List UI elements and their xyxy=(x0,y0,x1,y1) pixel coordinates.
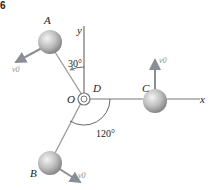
rotating-assembly-diagram: 6 A y 30° D O C x 120° B v0 v0 v0 xyxy=(0,0,217,190)
label-angle-120: 120° xyxy=(96,128,115,139)
label-d: D xyxy=(92,82,101,94)
rod-ob xyxy=(55,103,81,153)
label-angle-30: 30° xyxy=(68,58,82,69)
label-x: x xyxy=(199,93,205,105)
label-v0-a: v0 xyxy=(12,65,20,74)
label-c: C xyxy=(142,82,150,94)
label-v0-b: v0 xyxy=(78,171,86,180)
label-a: A xyxy=(43,14,51,26)
label-y: y xyxy=(76,24,82,36)
pivot-inner xyxy=(81,96,87,102)
label-o: O xyxy=(67,93,75,105)
label-b: B xyxy=(30,167,37,179)
figure-number: 6 xyxy=(0,0,6,11)
ball-b xyxy=(38,151,62,175)
ball-a xyxy=(38,30,62,54)
velocity-arrow-b xyxy=(58,168,80,182)
velocity-arrow-a xyxy=(16,48,42,62)
label-v0-c: v0 xyxy=(159,56,167,65)
